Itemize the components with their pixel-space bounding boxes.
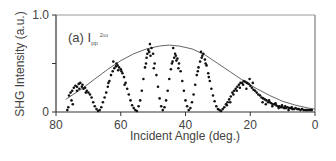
data-point [199,60,202,63]
data-point [70,99,73,102]
x-tick-label: 0 [312,118,319,132]
data-point [274,102,277,105]
data-point [223,106,226,109]
data-point [126,87,129,90]
data-point [207,72,210,75]
data-point [142,78,145,81]
data-point [200,51,203,54]
data-point [248,78,251,81]
data-point [160,105,163,108]
data-point [208,76,211,79]
data-point [177,67,180,70]
data-point [76,86,79,89]
data-point [268,99,271,102]
data-point [197,70,200,73]
data-point [157,86,160,89]
data-point [123,84,126,87]
data-point [68,94,71,97]
data-point [228,98,231,101]
data-point [261,101,264,104]
data-point [110,74,113,77]
data-point [71,89,74,92]
data-point [102,101,105,104]
data-point [137,105,140,108]
data-point [194,84,197,87]
data-point [168,78,171,81]
x-tick-label: 80 [49,118,63,132]
data-point [163,106,166,109]
data-point [90,96,93,99]
data-point [265,103,268,106]
y-tick-label: 0 [42,105,49,119]
x-tick-label: 60 [114,118,128,132]
data-point [152,53,155,56]
data-point [100,106,103,109]
data-point [230,95,233,98]
data-point [172,47,175,50]
data-point [290,106,293,109]
data-point [150,47,153,50]
data-point [153,62,156,65]
data-point [287,109,290,112]
data-point [146,53,149,56]
data-point [107,86,110,89]
data-point [212,94,215,97]
data-point [175,59,178,62]
y-axis-title: SHG Intensity (a.u.) [13,11,27,116]
data-point [226,101,229,104]
data-point [149,43,152,46]
data-point [76,89,79,92]
data-point [67,106,70,109]
data-point [115,62,118,65]
data-point [107,82,110,85]
data-point [158,97,161,100]
data-point [226,104,229,107]
data-point [252,82,255,85]
data-point [213,100,216,103]
data-point [155,74,158,77]
data-point [179,70,182,73]
shg-intensity-chart: 80604020001.0 (a) Ipp2ω Incident Angle (… [0,0,336,161]
data-point [187,109,190,112]
data-point [197,66,200,69]
data-point [271,105,274,108]
data-point [103,96,106,99]
data-point [98,109,101,112]
data-point [79,82,82,85]
data-point [84,87,87,90]
data-point [215,105,218,108]
data-point [148,51,151,54]
data-point [66,109,69,112]
x-tick-label: 20 [244,118,258,132]
data-point [153,67,156,70]
data-point [162,109,165,112]
data-point [105,91,108,94]
data-point [183,89,186,92]
data-point [117,69,120,72]
data-point [89,93,92,96]
data-point [144,66,147,69]
data-point [277,107,280,110]
data-point [174,53,177,56]
data-point [189,107,192,110]
data-point [81,84,84,87]
data-point [170,68,173,71]
data-point [171,62,174,65]
data-point [235,89,238,92]
data-point [166,89,169,92]
x-axis-title: Incident Angle (deg.) [130,129,240,143]
data-point [196,74,199,77]
data-point [245,87,248,90]
data-point [129,99,132,102]
data-point [120,70,123,73]
data-point [209,80,212,83]
data-point [141,89,144,92]
data-point [128,93,131,96]
data-point [94,105,97,108]
data-point [181,80,184,83]
data-point [201,54,204,57]
data-point [232,93,235,96]
data-point [145,56,148,59]
data-point [192,93,195,96]
data-point [186,105,189,108]
